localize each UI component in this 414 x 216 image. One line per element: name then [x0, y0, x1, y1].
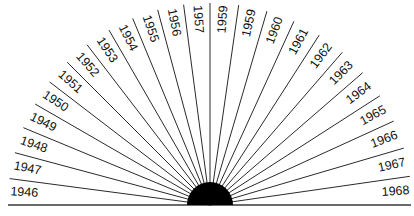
year-label: 1955	[140, 13, 162, 44]
year-label: 1950	[40, 87, 71, 114]
year-label: 1951	[55, 67, 85, 96]
ray-line	[210, 11, 267, 205]
year-label: 1949	[28, 110, 59, 135]
year-label: 1959	[239, 8, 259, 38]
ray-line	[210, 148, 404, 205]
ray-line	[67, 62, 210, 205]
ray-line	[210, 73, 363, 205]
year-label: 1963	[326, 58, 356, 88]
year-label: 1965	[357, 102, 388, 128]
ray-line	[35, 104, 210, 205]
year-label: 1953	[94, 34, 121, 65]
ray-line	[210, 176, 410, 205]
year-label: 1966	[369, 128, 400, 151]
hub-semicircle	[187, 182, 233, 205]
ray-line	[133, 18, 210, 205]
year-label: 1946	[10, 184, 39, 200]
ray-line	[158, 10, 210, 205]
year-label: 1967	[377, 155, 407, 175]
year-label: 1947	[13, 158, 43, 177]
ray-line	[15, 153, 210, 205]
year-label: 1956	[165, 7, 184, 37]
year-label: 1959	[215, 5, 231, 34]
year-label: 1968	[381, 183, 410, 199]
year-label: 1957	[191, 5, 207, 34]
ray-line	[23, 128, 210, 205]
year-fan-diagram: 1946194719481949195019511952195319541955…	[0, 0, 414, 216]
ray-line	[109, 30, 210, 205]
year-label: 1960	[263, 15, 286, 46]
ray-line	[210, 52, 342, 205]
ray-line	[210, 5, 239, 205]
year-label: 1952	[73, 50, 102, 80]
